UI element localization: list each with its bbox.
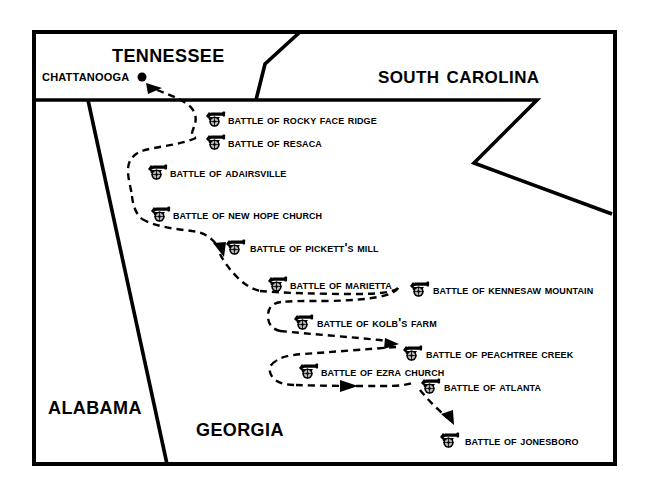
campaign-map: Battle of Rocky Face Ridge Battle of Res… (0, 0, 647, 496)
battle-label-atlanta: Battle of Atlanta (444, 381, 541, 394)
cannon-icon-peachtree-creek[interactable] (400, 343, 426, 362)
cannon-icon-kennesaw-mountain[interactable] (407, 279, 433, 298)
cannon-icon-jonesboro[interactable] (437, 430, 463, 449)
battle-label-kolbs-farm: Battle of Kolb's Farm (317, 317, 437, 330)
cannon-icon-picketts-mill[interactable] (223, 237, 249, 256)
battle-label-kennesaw-mountain: Battle of Kennesaw Mountain (433, 284, 593, 297)
battle-label-peachtree-creek: Battle of Peachtree Creek (426, 348, 573, 361)
state-label-alabama: Alabama (48, 393, 142, 418)
state-label-south-carolina: South Carolina (378, 63, 539, 87)
battle-label-adairsville: Battle of Adairsville (170, 167, 286, 180)
cannon-icon-rocky-face-ridge[interactable] (203, 109, 229, 128)
cannon-icon-kolbs-farm[interactable] (291, 312, 317, 331)
battle-label-picketts-mill: Battle of Pickett's Mill (250, 242, 379, 255)
city-dot-icon (138, 73, 147, 82)
battle-label-resaca: Battle of Resaca (228, 137, 322, 150)
battle-label-marietta: Battle of Marietta (290, 279, 392, 292)
cannon-icon-ezra-church[interactable] (296, 361, 322, 380)
state-label-georgia: Georgia (196, 415, 284, 440)
battle-label-jonesboro: Battle of Jonesboro (465, 435, 579, 448)
city-label-chattanooga: Chattanooga (42, 68, 129, 83)
cannon-icon-marietta[interactable] (265, 274, 291, 293)
state-label-tennessee: Tennessee (112, 41, 225, 66)
battle-label-new-hope-church: Battle of New Hope Church (173, 209, 322, 222)
cannon-icon-new-hope-church[interactable] (148, 204, 174, 223)
cannon-icon-resaca[interactable] (203, 132, 229, 151)
battle-label-ezra-church: Battle of Ezra Church (321, 366, 444, 379)
cannon-icon-adairsville[interactable] (145, 162, 171, 181)
battle-label-rocky-face-ridge: Battle of Rocky Face Ridge (228, 114, 377, 127)
